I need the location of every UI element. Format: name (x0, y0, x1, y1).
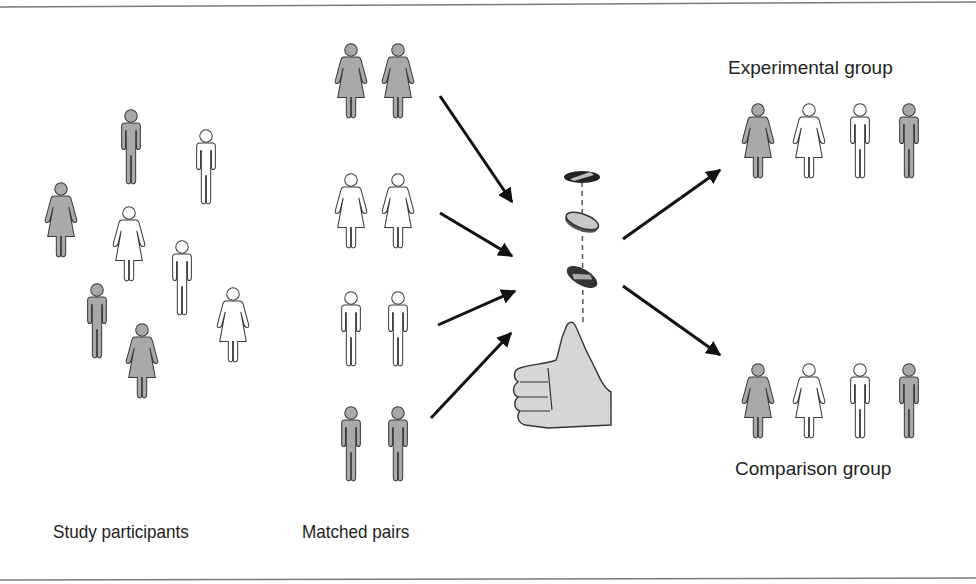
coin-icon (564, 171, 600, 183)
arrow (438, 291, 515, 325)
arrow (431, 333, 511, 418)
female-figure-icon (45, 183, 77, 257)
matched-pairs-diagram (0, 0, 976, 584)
female-figure-icon (335, 44, 367, 118)
male-figure-icon (197, 130, 216, 204)
bottom-rule (0, 578, 976, 580)
female-figure-icon (382, 174, 414, 248)
female-figure-icon (793, 364, 825, 438)
arrow (623, 170, 720, 239)
female-figure-icon (126, 324, 158, 398)
female-figure-icon (742, 104, 774, 178)
arrow (623, 286, 720, 355)
coin-toss-thumb-icon (514, 171, 612, 428)
male-figure-icon (342, 407, 361, 481)
male-figure-icon (88, 284, 107, 358)
female-figure-icon (793, 104, 825, 178)
comparison-group-label: Comparison group (735, 458, 891, 480)
male-figure-icon (342, 292, 361, 366)
male-figure-icon (851, 364, 870, 438)
male-figure-icon (389, 407, 408, 481)
top-rule (0, 2, 976, 7)
male-figure-icon (900, 104, 919, 178)
male-figure-icon (900, 364, 919, 438)
female-figure-icon (742, 364, 774, 438)
thumbs-up-hand-icon (514, 322, 612, 428)
female-figure-icon (217, 288, 249, 362)
coin-icon (563, 209, 601, 237)
female-figure-icon (382, 44, 414, 118)
study-participants-label: Study participants (53, 521, 189, 543)
male-figure-icon (173, 241, 192, 315)
experimental-group-label: Experimental group (728, 57, 893, 79)
arrow (440, 213, 512, 256)
matched-pairs-label: Matched pairs (302, 521, 409, 543)
female-figure-icon (113, 207, 145, 281)
arrow (440, 96, 512, 202)
people-layer (45, 44, 918, 481)
male-figure-icon (389, 292, 408, 366)
female-figure-icon (335, 174, 367, 248)
male-figure-icon (122, 110, 141, 184)
coin-path-line (582, 182, 583, 322)
male-figure-icon (851, 104, 870, 178)
